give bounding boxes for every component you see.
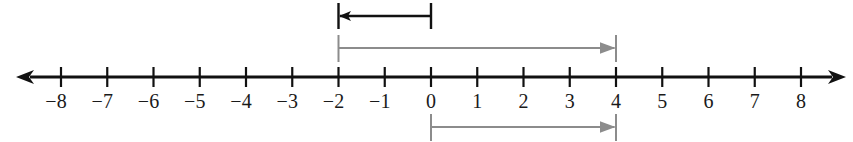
tick-label: −2 [323,90,344,112]
top-black-arrow [339,3,432,29]
tick-label: −7 [92,90,113,112]
tick-label: −1 [369,90,390,112]
tick-label: −8 [45,90,66,112]
number-line-diagram: −8−7−6−5−4−3−2−1012345678 [0,0,853,142]
tick-label: 3 [565,90,575,112]
tick-label: 8 [796,90,806,112]
axis-tick-labels: −8−7−6−5−4−3−2−1012345678 [45,90,806,112]
tick-label: 0 [426,90,436,112]
tick-label: −6 [138,90,159,112]
tick-label: −3 [277,90,298,112]
tick-label: 6 [704,90,714,112]
tick-label: 2 [519,90,529,112]
tick-label: −4 [230,90,251,112]
tick-label: −5 [184,90,205,112]
tick-label: 7 [750,90,760,112]
middle-gray-arrow [339,35,617,62]
tick-label: 5 [657,90,667,112]
number-line-axis: −8−7−6−5−4−3−2−1012345678 [16,67,846,112]
tick-label: 1 [472,90,482,112]
bottom-gray-arrow [431,114,616,141]
tick-label: 4 [611,90,621,112]
